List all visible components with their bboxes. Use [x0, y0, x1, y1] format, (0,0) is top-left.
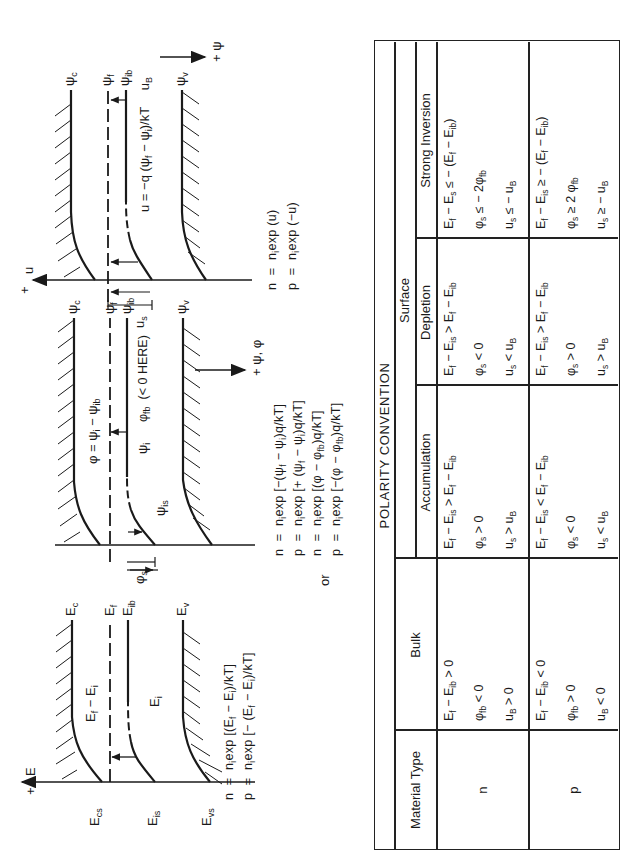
- level-label-eib: Eib: [121, 600, 139, 616]
- label-psi-i: ψi: [136, 443, 154, 454]
- surface-label-evs: Evs: [200, 808, 218, 826]
- label-phi-definition: φ = ψi − ψib: [86, 398, 104, 464]
- material-type-n: n: [436, 731, 528, 849]
- label-u-s: us: [133, 316, 151, 328]
- axis-plus-sign-u: +: [18, 286, 32, 294]
- accumulation-conditions-p: Ef − Eis < Ef − Eib φs < 0 us < uB: [528, 386, 618, 559]
- equation-n-phi: n = niexp [(φ − φfb)q/kT]: [310, 410, 329, 556]
- label-ei: Ei: [148, 696, 166, 707]
- level-label-psi-ib-u: ψib: [118, 70, 136, 86]
- surface-label-eis: Eis: [146, 811, 164, 826]
- polarity-convention-table: POLARITY CONVENTION Material Type Bulk S…: [374, 40, 620, 850]
- label-phi-fb-note: φfb (< 0 HERE): [136, 335, 154, 422]
- equation-p-phi: p = niexp [−(φ − φfb)q/kT]: [329, 403, 348, 556]
- depletion-conditions-p: Ef − Eis > Ef − Eib φs > 0 us > uB: [528, 239, 618, 386]
- equation-p-psi: p = niexp [+ (ψf − ψi)q/kT]: [291, 400, 310, 556]
- material-type-p: p: [528, 731, 618, 849]
- level-label-ef: Ef: [103, 605, 121, 616]
- label-ef-minus-ei: Ef − Ei: [84, 685, 102, 722]
- axis-plus-sign: +: [24, 787, 38, 795]
- or-label: or: [318, 574, 332, 586]
- level-label-psi-ib: ψib: [120, 298, 138, 314]
- header-accumulation: Accumulation: [415, 386, 436, 559]
- surface-label-ecs: Ecs: [88, 808, 106, 826]
- page-viewport: + E Ec Ef Eib Ev Ecs Eis Evs Ef − Ei Ei …: [0, 0, 639, 852]
- bulk-conditions-p: Ef − Eib < 0 φfb > 0 uB < 0: [528, 559, 618, 731]
- accumulation-conditions-n: Ef − Eis > Ef − Eib φs > 0 us > uB: [436, 386, 528, 559]
- level-label-psi-f-u: ψf: [100, 74, 118, 86]
- label-u-b: uB: [138, 77, 156, 130]
- equation-n-energy: n = niexp [(Ef − Ei)/kT]: [222, 664, 241, 800]
- axis-label-u: u: [22, 267, 36, 274]
- level-label-psi-c-u: ψc: [63, 72, 81, 86]
- depletion-conditions-n: Ef − Eis > Ef − Eib φs < 0 us < uB: [436, 239, 528, 386]
- equation-p-u: p = niexp (−u): [285, 202, 304, 290]
- equation-n-u: n = niexp (u): [265, 210, 284, 290]
- axis-label-energy: E: [24, 767, 38, 776]
- bulk-conditions-n: Ef − Eib > 0 φfb < 0 uB > 0: [436, 559, 528, 731]
- level-label-ev: Ev: [175, 603, 193, 616]
- header-material-type: Material Type: [394, 731, 436, 849]
- header-surface: Surface: [394, 42, 415, 559]
- equation-n-psi: n = niexp [−(ψf − ψi)q/kT]: [272, 404, 291, 556]
- level-label-psi-c: ψc: [66, 300, 84, 314]
- axis-label-psi-phi: + ψ, φ: [250, 340, 264, 376]
- strong-inversion-conditions-n: Ef − Es ≤ − (Ef − Eib) φs ≤ − 2φfb us ≤ …: [436, 42, 528, 239]
- table-title: POLARITY CONVENTION: [375, 42, 394, 849]
- rotated-page: + E Ec Ef Eib Ev Ecs Eis Evs Ef − Ei Ei …: [0, 0, 639, 852]
- energy-diagram: [22, 620, 255, 784]
- level-label-psi-v: ψv: [175, 300, 193, 314]
- header-strong-inversion: Strong Inversion: [415, 42, 436, 239]
- axis-label-psi-side: + ψ: [210, 42, 224, 62]
- level-label-psi-v-u: ψv: [174, 72, 192, 86]
- level-label-ec: Ec: [64, 603, 82, 616]
- header-depletion: Depletion: [415, 239, 436, 386]
- label-phi-s: φs: [133, 571, 151, 584]
- strong-inversion-conditions-p: Ef − Eis ≥ − (Ef − Eib) φs ≥ 2 φfb us ≥ …: [528, 42, 618, 239]
- equation-p-energy: p = niexp [− (Ef − Ei)/kT]: [241, 652, 260, 800]
- label-psi-is: ψis: [154, 500, 172, 516]
- header-bulk: Bulk: [394, 559, 436, 731]
